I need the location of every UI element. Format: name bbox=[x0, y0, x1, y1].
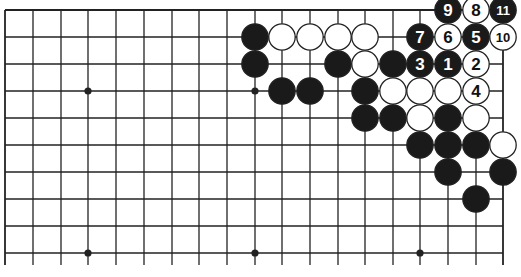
white-stone bbox=[463, 105, 489, 131]
white-stone-move-6: 6 bbox=[435, 24, 461, 50]
move-number-label: 7 bbox=[415, 28, 424, 47]
white-stone bbox=[352, 24, 378, 50]
white-stone-move-8: 8 bbox=[463, 0, 489, 23]
white-stone bbox=[435, 78, 461, 104]
move-number-label: 11 bbox=[496, 3, 510, 18]
black-stone bbox=[297, 78, 323, 104]
white-stone bbox=[325, 24, 351, 50]
black-stone bbox=[352, 78, 378, 104]
black-stone-move-11: 11 bbox=[490, 0, 516, 23]
move-number-label: 10 bbox=[496, 30, 510, 45]
move-number-label: 9 bbox=[443, 1, 452, 20]
black-stone bbox=[242, 51, 268, 77]
black-stone bbox=[380, 105, 406, 131]
white-stone bbox=[490, 132, 516, 158]
black-stone-move-3: 3 bbox=[407, 51, 433, 77]
black-stone bbox=[380, 51, 406, 77]
white-stone-move-2: 2 bbox=[463, 51, 489, 77]
black-stone-move-7: 7 bbox=[407, 24, 433, 50]
move-number-label: 8 bbox=[471, 1, 480, 20]
black-stone-move-9: 9 bbox=[435, 0, 461, 23]
white-stone bbox=[297, 24, 323, 50]
white-stone bbox=[407, 105, 433, 131]
white-stone bbox=[352, 51, 378, 77]
hoshi-point bbox=[251, 87, 258, 94]
white-stone-move-4: 4 bbox=[463, 78, 489, 104]
black-stone bbox=[463, 186, 489, 212]
go-board: 9811765103124 bbox=[0, 0, 521, 277]
hoshi-point bbox=[84, 249, 91, 256]
black-stone bbox=[463, 132, 489, 158]
move-number-label: 1 bbox=[443, 55, 452, 74]
white-stone-move-10: 10 bbox=[490, 24, 516, 50]
black-stone bbox=[352, 105, 378, 131]
move-number-label: 5 bbox=[471, 28, 480, 47]
black-stone bbox=[407, 132, 433, 158]
black-stone bbox=[435, 159, 461, 185]
hoshi-point bbox=[251, 249, 258, 256]
black-stone-move-1: 1 bbox=[435, 51, 461, 77]
white-stone bbox=[380, 78, 406, 104]
black-stone bbox=[269, 78, 295, 104]
black-stone bbox=[242, 24, 268, 50]
black-stone bbox=[325, 51, 351, 77]
black-stone-move-5: 5 bbox=[463, 24, 489, 50]
hoshi-point bbox=[84, 87, 91, 94]
move-number-label: 2 bbox=[471, 55, 480, 74]
black-stone bbox=[490, 159, 516, 185]
stones: 9811765103124 bbox=[242, 0, 516, 212]
move-number-label: 3 bbox=[415, 55, 424, 74]
move-number-label: 6 bbox=[443, 28, 452, 47]
move-number-label: 4 bbox=[471, 82, 481, 101]
black-stone bbox=[435, 105, 461, 131]
black-stone bbox=[435, 132, 461, 158]
white-stone bbox=[407, 78, 433, 104]
white-stone bbox=[269, 24, 295, 50]
hoshi-point bbox=[416, 249, 423, 256]
